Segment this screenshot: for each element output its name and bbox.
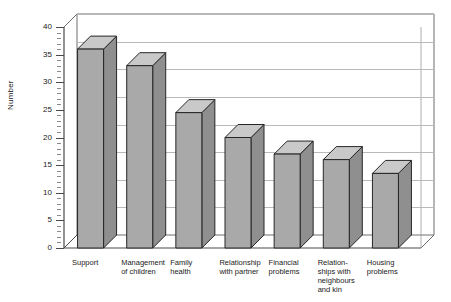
x-tick-label-line: Housing: [367, 258, 425, 267]
bar-chart: Number 0510152025303540 SupportManagemen…: [0, 0, 451, 302]
x-tick-label-line: and kin: [318, 285, 376, 294]
plot-area: 0510152025303540 SupportManagementof chi…: [0, 0, 451, 302]
x-tick-label: Housingproblems: [367, 258, 425, 276]
x-tick-label-line: problems: [367, 267, 425, 276]
x-tick-label-line: neighbours: [318, 276, 376, 285]
